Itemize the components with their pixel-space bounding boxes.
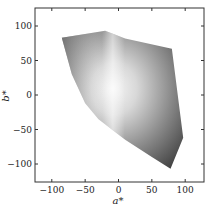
y-tick-label: −50 (13, 125, 32, 135)
y-tick-label: 0 (26, 90, 32, 100)
gamut-chart: −100−50050100 100500−50−100 a* b* (0, 0, 205, 215)
x-tick-label: −50 (76, 185, 95, 195)
x-tick-label: 50 (146, 185, 158, 195)
x-tick-label: −100 (39, 185, 64, 195)
y-axis-label: b* (0, 90, 11, 101)
x-tick-label: 100 (177, 185, 194, 195)
y-tick-label: 100 (15, 21, 32, 31)
x-tick-label: 0 (116, 185, 122, 195)
y-tick-label: 50 (21, 56, 33, 66)
y-tick-label: −100 (7, 159, 32, 169)
x-axis-label: a* (113, 195, 124, 206)
